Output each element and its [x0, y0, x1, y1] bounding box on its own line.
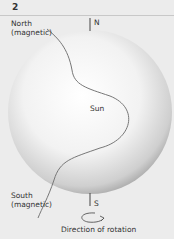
sun-label: Sun	[90, 104, 104, 113]
south-magnetic-label: South (magnetic)	[11, 191, 52, 209]
rotation-label: Direction of rotation	[61, 225, 136, 234]
north-pole-label: N	[94, 18, 100, 27]
rotation-arrow-icon	[82, 213, 104, 222]
south-pole-label: S	[94, 199, 99, 208]
north-magnetic-label: North (magnetic)	[11, 19, 52, 37]
